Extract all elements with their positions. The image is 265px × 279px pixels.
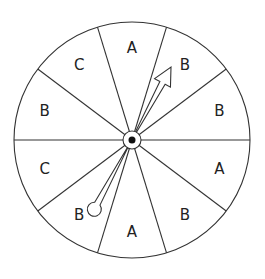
sector-label: C bbox=[39, 160, 49, 178]
sector-label: A bbox=[127, 223, 138, 241]
sector-label: C bbox=[74, 56, 84, 74]
sector-label: B bbox=[180, 206, 190, 224]
hub-dot bbox=[129, 137, 136, 144]
sector-label: B bbox=[74, 206, 84, 224]
spinner-wheel: BBACBCBABA bbox=[0, 0, 265, 279]
sector-label: A bbox=[214, 160, 225, 178]
sector-label: B bbox=[214, 102, 224, 120]
sector-label: A bbox=[127, 39, 138, 57]
sector-divider bbox=[38, 69, 132, 140]
sector-divider bbox=[38, 140, 132, 211]
sector-label: B bbox=[180, 56, 190, 74]
spinner-diagram: BBACBCBABA bbox=[0, 0, 265, 279]
sector-divider bbox=[132, 140, 226, 211]
sector-divider bbox=[132, 140, 166, 253]
sector-divider bbox=[132, 69, 226, 140]
sector-label: B bbox=[40, 102, 50, 120]
